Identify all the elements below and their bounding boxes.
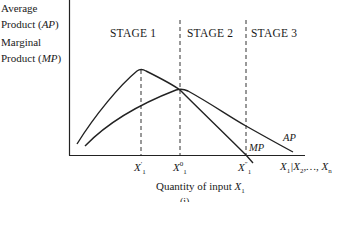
x-axis-end-label: X1|X2,…, Xn [280, 160, 332, 175]
stage-2-label: STAGE 2 [187, 27, 233, 39]
x-tick-x1-zero: X01 [173, 160, 187, 176]
x-title-text: Quantity of input [156, 180, 235, 192]
tick-var: X [134, 161, 141, 173]
stage-1-label: STAGE 1 [110, 27, 156, 39]
tick-var: X [280, 160, 287, 172]
x-axis-title: Quantity of input X1 [156, 180, 245, 195]
tick-var: |X [290, 160, 300, 172]
mp-curve [77, 70, 253, 164]
tick-sup: ″ [245, 160, 248, 168]
tick-sup: 0 [180, 160, 184, 168]
tick-sup: ′ [141, 160, 143, 168]
tick-var: ,…, X [303, 160, 328, 172]
tick-var: X [173, 161, 180, 173]
figure-caption: (i) [180, 196, 189, 202]
x-tick-x1-prime: X′1 [134, 160, 146, 176]
tick-sub: 1 [248, 168, 252, 176]
ap-curve-label: AP [283, 132, 296, 143]
mp-curve-label: MP [249, 142, 264, 153]
x-title-sub: 1 [241, 187, 245, 195]
tick-sub: 1 [142, 168, 146, 176]
tick-var: X [238, 161, 245, 173]
tick-sub: 1 [183, 168, 187, 176]
x-tick-x1-double-prime: X″1 [238, 160, 251, 176]
stage-3-label: STAGE 3 [251, 27, 297, 39]
tick-sub: n [328, 167, 332, 175]
